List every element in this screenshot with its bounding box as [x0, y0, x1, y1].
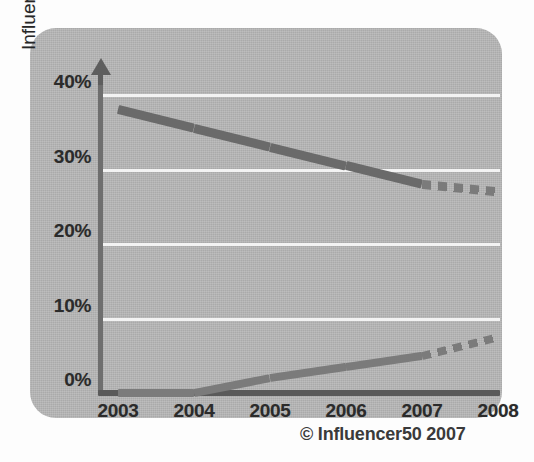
y-axis-line: [98, 80, 103, 393]
x-tick-label-2004: 2004: [173, 400, 214, 422]
x-tick-label-2003: 2003: [97, 400, 138, 422]
copyright-notice: © Influencer50 2007: [300, 424, 466, 445]
y-axis-title-container: Influencers per tech market (average): [0, 0, 30, 462]
series-segment-2005-2006: [269, 363, 346, 382]
series-segment-2006-2007: [345, 161, 423, 188]
x-tick-label-2007: 2007: [401, 400, 442, 422]
scan-canvas: Influencers per tech market (average) 0%…: [0, 0, 534, 462]
series-segment-2004-2005: [193, 124, 271, 151]
x-tick-label-2005: 2005: [249, 400, 290, 422]
plot-area: 0%10%20%30%40% 200320042005200620072008: [98, 60, 500, 393]
up-arrow-stem: [98, 73, 103, 85]
series-segment-2005-2006: [269, 143, 347, 170]
gridline-20%: [103, 243, 500, 246]
gridline-10%: [103, 318, 500, 321]
gridline-40%: [103, 94, 500, 97]
y-tick-label-30%: 30%: [54, 146, 91, 168]
x-tick-label-2008: 2008: [477, 400, 518, 422]
series-segment-2006-2007: [345, 352, 422, 371]
y-tick-label-40%: 40%: [54, 71, 91, 93]
x-tick-label-2006: 2006: [325, 400, 366, 422]
y-tick-label-0%: 0%: [64, 369, 91, 391]
gridline-30%: [103, 169, 500, 172]
series-segment-2003-2004: [117, 106, 195, 133]
series-segment-2007-2008: [421, 333, 499, 359]
series-segment-2007-2008: [422, 180, 499, 196]
series-segment-2003-2004: [118, 389, 194, 397]
y-axis-title: Influencers per tech market (average): [18, 0, 40, 50]
y-tick-label-10%: 10%: [54, 295, 91, 317]
y-tick-label-20%: 20%: [54, 220, 91, 242]
